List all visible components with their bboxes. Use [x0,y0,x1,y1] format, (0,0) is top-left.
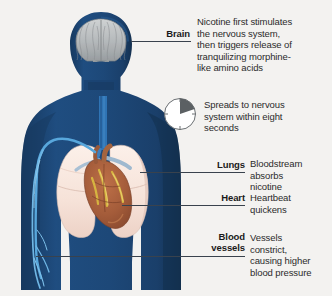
callout-blood-vessels-body: Vessels constrict, causing higher blood … [250,232,332,278]
callout-heart-body: Heartbeat quickens [250,192,332,215]
leader-line-heart [122,205,245,206]
clock-pie-icon [163,97,197,131]
leader-line-lungs [140,172,245,173]
callout-lungs-body: Bloodstream absorbs nicotine [250,158,332,193]
callout-blood-vessels-title: Blood vessels [170,232,245,253]
clock-note-text: Spreads to nervous system within eight s… [204,99,332,134]
leader-line-brain [131,41,191,42]
nicotine-effects-infographic: Brain Nicotine first stimulates the nerv… [0,0,332,296]
callout-brain-title: Brain [131,29,190,40]
callout-heart-title: Heart [180,193,245,204]
callout-brain-body: Nicotine first stimulates the nervous sy… [197,16,331,74]
leader-line-vessels [36,256,245,257]
callout-lungs-title: Lungs [180,160,245,171]
